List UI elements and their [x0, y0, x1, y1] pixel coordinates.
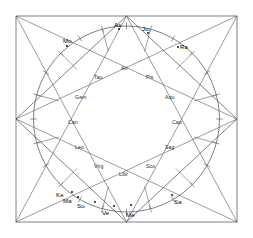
- planet-label: Ra: [180, 44, 188, 50]
- zodiac-sign-label: Can: [68, 120, 78, 125]
- zodiac-sign-label: Virg: [94, 164, 104, 169]
- planet-dot: [71, 191, 73, 193]
- planet-dot: [130, 204, 132, 206]
- planet-label: Me: [126, 212, 135, 218]
- house-cusp-line: [145, 187, 151, 209]
- house-cusp-line: [61, 53, 77, 69]
- planet-label: As: [114, 22, 121, 28]
- chart-canvas: [0, 0, 253, 238]
- zodiac-sign-label: Tau: [94, 75, 103, 80]
- zodiac-sign-label: Libr: [119, 172, 128, 177]
- zodiac-sign-label: Pis: [146, 75, 154, 80]
- planet-dot: [177, 46, 179, 48]
- planet-dot: [171, 194, 173, 196]
- chart-outer-square: [16, 16, 237, 222]
- zodiac-sign-label: Ari: [121, 66, 128, 71]
- house-cusp-line: [37, 137, 59, 143]
- house-cusp-line: [102, 187, 108, 209]
- zodiac-sign-label: Gem: [75, 95, 87, 100]
- house-cusp-line: [194, 137, 216, 143]
- planet-label: Ve: [102, 210, 109, 216]
- house-cusp-line: [102, 29, 108, 51]
- planet-dot: [118, 28, 120, 30]
- planet-dot: [147, 32, 149, 34]
- planet-dot: [94, 201, 96, 203]
- planet-label: Ma: [63, 198, 72, 204]
- zodiac-sign-label: Cap: [172, 120, 182, 125]
- zodiac-sign-label: Aqu: [165, 95, 175, 100]
- zodiac-sign-label: Sco: [146, 164, 155, 169]
- zodiac-sign-label: Sag: [165, 145, 175, 150]
- planet-label: Ju: [142, 26, 149, 32]
- house-cusp-line: [37, 95, 59, 101]
- planet-dot: [113, 205, 115, 207]
- degree-tick: [78, 35, 82, 41]
- planet-label: Mo: [63, 38, 72, 44]
- chart-inner-diamond: [16, 16, 237, 222]
- planet-dot: [77, 196, 79, 198]
- house-cusp-line: [176, 53, 192, 69]
- planet-dot: [66, 45, 68, 47]
- astrology-chart: AriTauGemCanLeoVirgLibrScoSagCapAquPisAs…: [0, 0, 253, 238]
- planet-label: Sa: [174, 199, 182, 205]
- house-cusp-line: [176, 168, 192, 184]
- degree-tick: [171, 35, 175, 41]
- planet-label: Su: [77, 203, 85, 209]
- house-cusp-line: [61, 168, 77, 184]
- house-cusp-line: [194, 95, 216, 101]
- zodiac-sign-label: Leo: [75, 145, 84, 150]
